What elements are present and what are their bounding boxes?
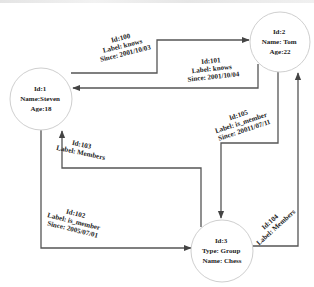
edge-105-label: Id:105 Label: is_member Since: 20011/07/… [212, 103, 273, 143]
edge-102-label: Id:102 Label: is_member Since: 2005/07/0… [45, 203, 105, 240]
node-1: Id:1 Name:Steven Age:18 [10, 68, 72, 130]
edge-100-label: Id:100 Label: knows Since: 2001/10/03 [95, 28, 152, 64]
edge-101-label: Id:101 Label: knows Since: 2001/10/04 [186, 54, 241, 83]
edge-105: Id:105 Label: is_member Since: 20011/07/… [212, 72, 278, 218]
graph-diagram: Id:100 Label: knows Since: 2001/10/03 Id… [0, 0, 314, 287]
edge-104-label: Id:104 Label: Members [250, 202, 298, 247]
edge-103-label: Id:103 Label: Members [56, 136, 108, 162]
node-3: Id:3 Type: Group Name: Chess [191, 220, 253, 282]
edge-105-line [221, 72, 278, 218]
edge-104: Id:104 Label: Members [250, 73, 298, 247]
node-2: Id:2 Name: Tom Age:22 [250, 12, 310, 72]
